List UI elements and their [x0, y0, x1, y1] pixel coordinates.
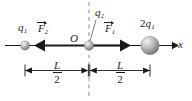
- origin-label: O: [70, 33, 78, 44]
- force-vector-F1: [92, 40, 131, 52]
- charge-sphere-middle: [84, 41, 94, 51]
- dimension-label-left: L 2: [49, 60, 65, 85]
- axis-label-x: x: [178, 39, 183, 50]
- charge-label-q2: q2: [95, 7, 104, 19]
- charge-label-q1-left: q1: [18, 22, 27, 34]
- force-label-F1: F1: [105, 22, 115, 35]
- q2-leader-line: [90, 20, 96, 41]
- force-diagram: q1 F2 O q2 F1 2q1 x L 2 L 2: [0, 0, 192, 101]
- force-label-F2: F2: [38, 22, 48, 35]
- charge-label-2q1: 2q1: [140, 18, 155, 30]
- dimension-label-right: L 2: [112, 60, 128, 85]
- charge-sphere-right: [141, 36, 159, 54]
- charge-sphere-left: [20, 41, 29, 50]
- force-vector-F2: [34, 40, 86, 52]
